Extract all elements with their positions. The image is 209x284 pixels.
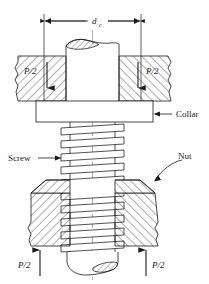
force-label-bottom-left: P/2 [17,260,31,270]
nut-label: Nut [178,151,192,161]
dimension-label-subscript: c [99,22,102,28]
screw-label: Screw [8,153,31,163]
force-label-bottom-right: P/2 [151,260,165,270]
screw-assembly-diagram: d c P/2 P/2 [0,0,209,284]
collar-body [36,101,153,122]
right-clamped-member [119,56,171,101]
left-clamped-member [15,56,66,101]
force-label-top-right: P/2 [145,66,159,76]
collar-plate [36,101,153,122]
collar-label: Collar [176,109,199,119]
dimension-label-d: d [92,16,97,26]
figure-canvas: d c P/2 P/2 [0,0,209,284]
force-label-top-left: P/2 [23,66,37,76]
upper-cylinder [66,39,119,101]
